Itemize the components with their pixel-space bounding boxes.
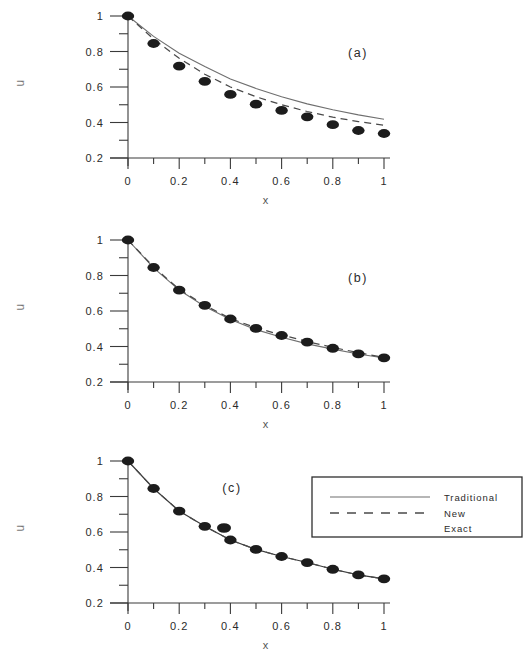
exact-data-point — [122, 457, 134, 466]
exact-data-point — [224, 90, 236, 99]
exact-data-point — [173, 507, 185, 516]
exact-data-point — [301, 338, 313, 347]
x-tick-label-b: 0.2 — [170, 399, 189, 411]
exact-data-point — [352, 571, 364, 580]
x-tick-label-a: 1 — [380, 175, 387, 187]
x-tick-label-a: 0.4 — [221, 175, 240, 187]
multi-panel-chart: 10.80.60.40.200.20.40.60.81xu(a)10.80.60… — [0, 0, 531, 671]
y-tick-label-a: 0.4 — [85, 117, 104, 129]
x-axis-title-c: x — [263, 639, 270, 651]
x-tick-label-b: 0.6 — [272, 399, 291, 411]
x-tick-label-c: 0.6 — [272, 620, 291, 632]
exact-data-point — [122, 12, 134, 21]
exact-data-point — [147, 39, 159, 48]
exact-data-point — [378, 353, 390, 362]
exact-data-point — [250, 100, 262, 109]
exact-data-point — [327, 565, 339, 574]
legend-sample-exact — [217, 523, 231, 533]
x-axis-title-a: x — [263, 194, 270, 206]
panel-label-a: (a) — [348, 46, 368, 60]
y-tick-label-a: 1 — [97, 10, 104, 22]
exact-data-point — [224, 315, 236, 324]
y-tick-label-b: 0.6 — [85, 305, 104, 317]
x-axis-title-b: x — [263, 418, 270, 430]
curve-traditional-b — [128, 240, 384, 358]
y-tick-label-a: 0.6 — [85, 81, 104, 93]
x-tick-label-c: 0.8 — [324, 620, 343, 632]
exact-data-point — [224, 536, 236, 545]
figure-root: 10.80.60.40.200.20.40.60.81xu(a)10.80.60… — [0, 0, 531, 671]
y-tick-label-b: 1 — [97, 234, 104, 246]
x-tick-label-b: 0.8 — [324, 399, 343, 411]
y-tick-label-b: 0.8 — [85, 270, 104, 282]
panel-label-b: (b) — [348, 271, 368, 285]
curve-traditional-c — [128, 461, 384, 579]
x-tick-label-b: 0.4 — [221, 399, 240, 411]
x-tick-label-a: 0.8 — [324, 175, 343, 187]
exact-data-point — [352, 126, 364, 135]
panel-label-c: (c) — [222, 481, 241, 495]
legend-label-exact: Exact — [444, 523, 472, 534]
exact-data-point — [173, 62, 185, 71]
panel-b: 10.80.60.40.200.20.40.60.81xu(b) — [13, 234, 390, 430]
exact-data-point — [199, 301, 211, 310]
curve-new-a — [128, 16, 384, 125]
x-tick-label-c: 0 — [124, 620, 131, 632]
exact-data-point — [199, 522, 211, 531]
y-tick-label-c: 0.6 — [85, 526, 104, 538]
exact-data-point — [250, 545, 262, 554]
y-axis-title-b: u — [13, 303, 27, 311]
exact-data-point — [327, 120, 339, 129]
exact-data-point — [275, 331, 287, 340]
y-tick-label-c: 0.2 — [85, 597, 104, 609]
exact-data-point — [378, 129, 390, 138]
legend-box — [312, 477, 522, 537]
legend: TraditionalNewExact — [217, 477, 522, 537]
exact-data-point — [352, 350, 364, 359]
exact-data-point — [122, 236, 134, 245]
curve-new-b — [128, 240, 384, 358]
exact-data-point — [199, 77, 211, 86]
y-axis-title-c: u — [13, 524, 27, 532]
exact-data-point — [147, 263, 159, 272]
curve-new-c — [128, 461, 384, 579]
x-tick-label-a: 0 — [124, 175, 131, 187]
exact-data-point — [275, 552, 287, 561]
x-tick-label-c: 0.2 — [170, 620, 189, 632]
x-tick-label-c: 0.4 — [221, 620, 240, 632]
y-tick-label-c: 1 — [97, 455, 104, 467]
y-tick-label-a: 0.2 — [85, 152, 104, 164]
panel-a: 10.80.60.40.200.20.40.60.81xu(a) — [13, 10, 390, 206]
x-tick-label-a: 0.6 — [272, 175, 291, 187]
y-tick-label-c: 0.8 — [85, 491, 104, 503]
legend-label-traditional: Traditional — [444, 492, 498, 503]
y-tick-label-b: 0.4 — [85, 341, 104, 353]
exact-data-point — [301, 558, 313, 567]
panel-c: 10.80.60.40.200.20.40.60.81xu(c) — [13, 455, 390, 651]
x-tick-label-b: 1 — [380, 399, 387, 411]
exact-data-point — [301, 112, 313, 121]
x-tick-label-c: 1 — [380, 620, 387, 632]
legend-label-new: New — [444, 508, 466, 519]
exact-data-point — [173, 286, 185, 295]
exact-data-point — [275, 106, 287, 115]
exact-data-point — [147, 484, 159, 493]
y-axis-title-a: u — [13, 79, 27, 87]
exact-data-point — [327, 344, 339, 353]
x-tick-label-b: 0 — [124, 399, 131, 411]
y-tick-label-c: 0.4 — [85, 562, 104, 574]
y-tick-label-b: 0.2 — [85, 376, 104, 388]
y-tick-label-a: 0.8 — [85, 46, 104, 58]
exact-data-point — [250, 324, 262, 333]
x-tick-label-a: 0.2 — [170, 175, 189, 187]
exact-data-point — [378, 574, 390, 583]
